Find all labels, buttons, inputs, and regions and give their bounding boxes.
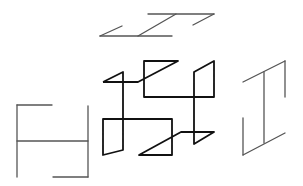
isometric-view (103, 61, 214, 155)
top-view (100, 14, 214, 36)
wire-figure-diagram (0, 0, 303, 186)
side-view (243, 61, 285, 155)
front-view (17, 105, 88, 177)
